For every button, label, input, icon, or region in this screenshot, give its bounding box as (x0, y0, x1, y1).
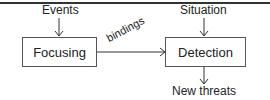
node-focusing: Focusing (22, 37, 97, 67)
node-detection: Detection (165, 37, 246, 67)
input-label-situation: Situation (180, 3, 227, 17)
output-label-new-threats: New threats (172, 84, 236, 98)
node-focusing-label: Focusing (33, 45, 86, 60)
input-label-events: Events (42, 3, 79, 17)
node-detection-label: Detection (178, 45, 233, 60)
